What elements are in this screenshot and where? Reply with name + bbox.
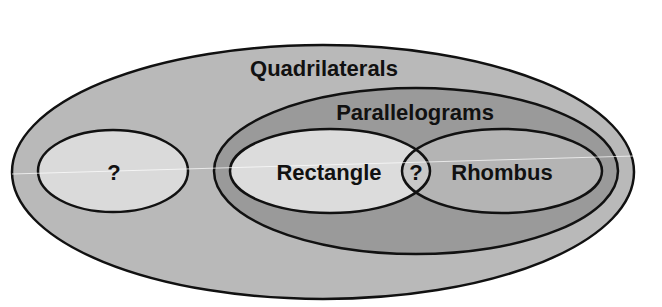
intersection-label: ? [409, 160, 422, 185]
rhombus-label: Rhombus [451, 160, 552, 185]
quadrilaterals-label: Quadrilaterals [250, 56, 398, 81]
unknown-set-label: ? [107, 160, 120, 185]
venn-diagram: Quadrilaterals Parallelograms ? Rectangl… [0, 0, 662, 307]
parallelograms-label: Parallelograms [336, 100, 494, 125]
rectangle-label: Rectangle [276, 160, 381, 185]
